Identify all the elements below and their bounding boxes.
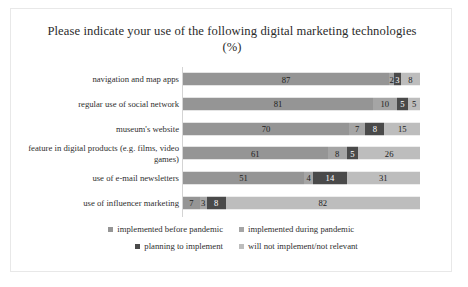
stacked-bar: 811055	[183, 97, 420, 110]
bar-segment: 51	[183, 171, 304, 184]
bar-segment-value: 8	[373, 124, 377, 133]
bar-segment: 15	[384, 122, 420, 135]
category-label: regular use of social network	[13, 99, 179, 110]
bar-segment: 8	[328, 147, 347, 160]
legend-item[interactable]: implemented during pandemic	[231, 224, 451, 234]
bar-segment-value: 5	[400, 100, 404, 109]
legend-label: implemented before pandemic	[117, 224, 223, 234]
bar-segment-value: 15	[398, 124, 407, 133]
chart-title: Please indicate your use of the followin…	[45, 23, 419, 55]
bar-segment-value: 8	[408, 75, 412, 84]
bar-segment: 5	[408, 97, 420, 110]
chart-bar-row: feature in digital products (e.g. films,…	[11, 141, 451, 166]
bar-segment-value: 7	[189, 198, 193, 207]
bar-segment-value: 31	[379, 174, 388, 183]
bar-segment-value: 4	[306, 174, 310, 183]
bar-segment-value: 3	[395, 75, 399, 84]
legend-swatch-icon	[135, 244, 140, 249]
legend-item[interactable]: will not implement/not relevant	[231, 241, 451, 251]
bar-segment-value: 7	[355, 124, 359, 133]
bar-segment-value: 3	[201, 198, 205, 207]
bar-segment-value: 81	[274, 100, 283, 109]
legend-item[interactable]: implemented before pandemic	[11, 224, 231, 234]
legend-swatch-icon	[108, 227, 113, 232]
bar-segment: 26	[358, 147, 420, 160]
chart-frame: Please indicate your use of the followin…	[10, 8, 452, 272]
chart-legend: implemented before pandemicimplemented d…	[11, 224, 451, 251]
bar-segment: 5	[397, 97, 409, 110]
legend-item[interactable]: planning to implement	[11, 241, 231, 251]
category-label: navigation and map apps	[13, 74, 179, 85]
legend-swatch-icon	[239, 244, 244, 249]
bar-segment-value: 70	[262, 124, 271, 133]
bar-segment: 70	[183, 122, 349, 135]
stacked-bar: 618526	[183, 147, 420, 160]
category-label: museum's website	[13, 123, 179, 134]
bar-segment: 4	[304, 171, 313, 184]
bar-segment: 10	[373, 97, 396, 110]
bar-segment: 8	[365, 122, 384, 135]
legend-swatch-icon	[239, 227, 244, 232]
category-label: use of e-mail newsletters	[13, 173, 179, 184]
bar-segment-value: 8	[214, 198, 218, 207]
stacked-bar: 73882	[183, 196, 420, 209]
legend-label: will not implement/not relevant	[248, 241, 358, 251]
chart-bar-row: use of influencer marketing73882	[11, 190, 451, 215]
bar-segment: 14	[313, 171, 346, 184]
bar-segment: 7	[183, 196, 200, 209]
bar-segment-value: 5	[350, 149, 354, 158]
chart-bar-row: use of e-mail newsletters5141431	[11, 166, 451, 191]
stacked-bar: 87238	[183, 73, 420, 86]
bar-segment: 82	[226, 196, 420, 209]
category-label: feature in digital products (e.g. films,…	[13, 143, 179, 164]
bar-segment: 5	[347, 147, 359, 160]
category-label: use of influencer marketing	[13, 197, 179, 208]
bar-segment-value: 8	[335, 149, 339, 158]
bar-segment-value: 51	[239, 174, 248, 183]
chart-bar-row: regular use of social network811055	[11, 92, 451, 117]
bar-segment-value: 5	[412, 100, 416, 109]
bar-segment: 81	[183, 97, 373, 110]
stacked-bar: 5141431	[183, 171, 420, 184]
bar-segment-value: 10	[380, 100, 389, 109]
stacked-bar: 707815	[183, 122, 420, 135]
plot-area: navigation and map apps87238regular use …	[11, 67, 451, 215]
bar-segment: 3	[200, 196, 207, 209]
bar-segment-value: 2	[389, 75, 393, 84]
bar-segment: 87	[183, 73, 389, 86]
bar-segment-value: 14	[326, 174, 335, 183]
legend-label: planning to implement	[144, 241, 223, 251]
bar-segment-value: 87	[282, 75, 291, 84]
legend-label: implemented during pandemic	[248, 224, 354, 234]
bar-segment: 7	[349, 122, 366, 135]
bar-segment: 8	[207, 196, 226, 209]
bar-segment: 8	[401, 73, 420, 86]
bar-segment: 61	[183, 147, 328, 160]
bar-segment-value: 26	[385, 149, 394, 158]
bar-segment: 3	[394, 73, 401, 86]
chart-bar-row: navigation and map apps87238	[11, 67, 451, 92]
bar-segment-value: 61	[251, 149, 260, 158]
bar-segment: 31	[347, 171, 420, 184]
bar-segment-value: 82	[319, 198, 328, 207]
chart-bar-row: museum's website707815	[11, 116, 451, 141]
